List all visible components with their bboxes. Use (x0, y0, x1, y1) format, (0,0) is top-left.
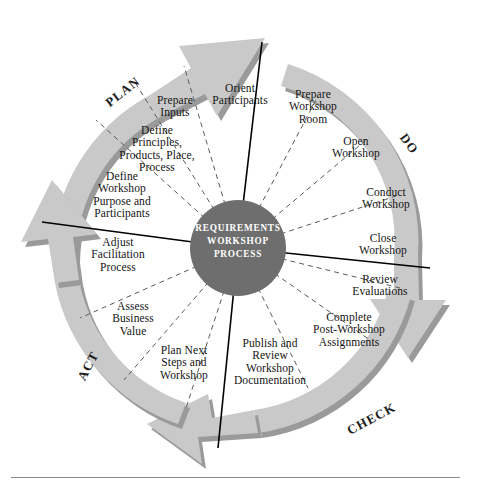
step-assess-business-value: Assess Business Value (97, 300, 169, 337)
step-open-workshop: Open Workshop (315, 135, 397, 160)
step-define-purpose: Define Workshop Purpose and Participants (70, 170, 174, 220)
process-diagram: REQUIREMENTS WORKSHOP PROCESS PLAN DO CH… (0, 0, 477, 489)
step-publish-review-doc: Publish and Review Workshop Documentatio… (222, 337, 318, 387)
footer-rule (11, 477, 460, 478)
step-prepare-inputs: Prepare Inputs (145, 94, 205, 119)
step-conduct-workshop: Conduct Workshop (345, 186, 427, 211)
hub-title: REQUIREMENTS WORKSHOP PROCESS (190, 222, 286, 261)
step-review-evaluations: Review Evaluations (334, 273, 426, 298)
step-adjust-facilitation: Adjust Facilitation Process (76, 236, 160, 273)
step-define-principles: Define Principles, Products, Place, Proc… (103, 124, 211, 174)
step-plan-next-steps: Plan Next Steps and Workshop (144, 344, 224, 381)
step-prepare-room: Prepare Workshop Room (270, 88, 356, 125)
step-close-workshop: Close Workshop (342, 232, 424, 257)
